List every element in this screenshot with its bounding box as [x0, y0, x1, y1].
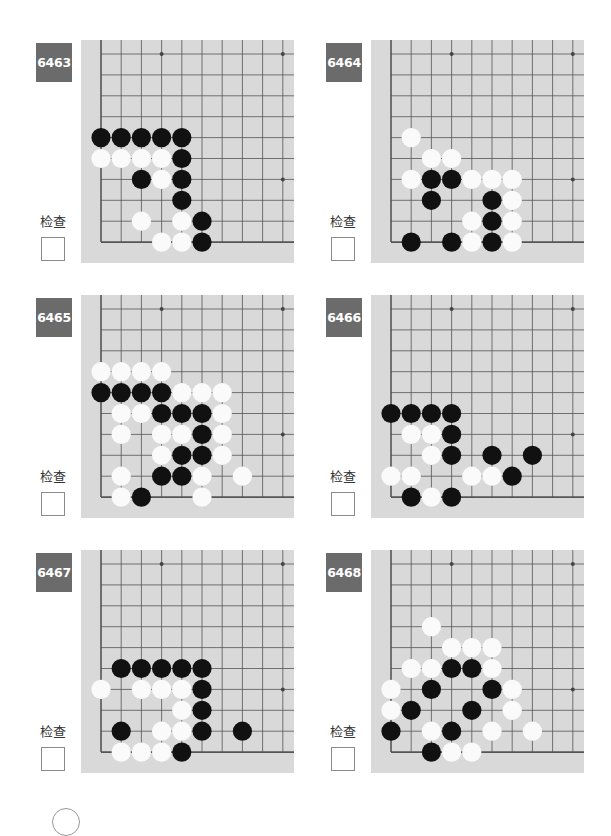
white-stone [152, 362, 171, 381]
white-stone [402, 659, 421, 678]
black-stone [442, 404, 461, 423]
white-stone [172, 701, 191, 720]
check-box[interactable] [41, 492, 65, 516]
problem-6467: 6467 检查 [30, 550, 300, 775]
white-stone [503, 170, 522, 189]
white-stone [422, 149, 441, 168]
black-stone [172, 128, 191, 147]
white-stone [112, 488, 131, 507]
white-stone [192, 383, 211, 402]
black-stone [192, 425, 211, 444]
black-stone [132, 659, 151, 678]
check-box[interactable] [331, 747, 355, 771]
white-stone [422, 722, 441, 741]
problem-6464: 6464 检查 [320, 40, 590, 265]
white-stone [482, 170, 501, 189]
white-stone [112, 425, 131, 444]
check-label: 检查 [40, 211, 66, 230]
white-stone [442, 149, 461, 168]
white-stone [462, 233, 481, 252]
white-stone [503, 212, 522, 231]
problem-number-badge: 6467 [36, 553, 72, 592]
black-stone [442, 722, 461, 741]
board-grid [371, 550, 584, 773]
black-stone [152, 383, 171, 402]
black-stone [112, 128, 131, 147]
check-box[interactable] [331, 237, 355, 261]
star-point [281, 687, 285, 691]
go-board [371, 40, 584, 263]
black-stone [172, 404, 191, 423]
board-grid [371, 295, 584, 518]
problem-number-badge: 6468 [326, 553, 362, 592]
problem-6466: 6466 检查 [320, 295, 590, 520]
go-board [371, 550, 584, 773]
black-stone [112, 383, 131, 402]
check-box[interactable] [41, 237, 65, 261]
star-point [160, 52, 164, 56]
white-stone [503, 191, 522, 210]
white-stone [442, 638, 461, 657]
star-point [571, 562, 575, 566]
white-stone [503, 233, 522, 252]
white-stone [523, 722, 542, 741]
black-stone [422, 191, 441, 210]
star-point [160, 307, 164, 311]
white-stone [482, 467, 501, 486]
white-stone [422, 659, 441, 678]
problem-6463: 6463 检查 [30, 40, 300, 265]
black-stone [172, 149, 191, 168]
black-stone [192, 659, 211, 678]
black-stone [442, 425, 461, 444]
white-stone [213, 383, 232, 402]
star-point [281, 52, 285, 56]
white-stone [402, 467, 421, 486]
black-stone [91, 128, 110, 147]
black-stone [381, 722, 400, 741]
black-stone [462, 659, 481, 678]
white-stone [422, 617, 441, 636]
check-label: 检查 [330, 211, 356, 230]
white-stone [91, 362, 110, 381]
white-stone [112, 149, 131, 168]
white-stone [213, 425, 232, 444]
check-box[interactable] [41, 747, 65, 771]
white-stone [422, 425, 441, 444]
black-stone [112, 659, 131, 678]
black-stone [422, 680, 441, 699]
star-point [281, 307, 285, 311]
board-grid [371, 40, 584, 263]
black-stone [192, 233, 211, 252]
star-point [450, 52, 454, 56]
black-stone [482, 212, 501, 231]
black-stone [482, 191, 501, 210]
star-point [571, 307, 575, 311]
white-stone [132, 212, 151, 231]
white-stone [152, 446, 171, 465]
white-stone [381, 680, 400, 699]
check-box[interactable] [331, 492, 355, 516]
white-stone [152, 722, 171, 741]
black-stone [172, 659, 191, 678]
white-stone [152, 743, 171, 762]
white-stone [172, 425, 191, 444]
white-stone [112, 467, 131, 486]
white-stone [91, 149, 110, 168]
white-stone [172, 680, 191, 699]
black-stone [442, 170, 461, 189]
black-stone [482, 680, 501, 699]
go-board [81, 295, 294, 518]
black-stone [402, 233, 421, 252]
problem-number-badge: 6466 [326, 298, 362, 337]
black-stone [192, 404, 211, 423]
white-stone [152, 149, 171, 168]
black-stone [152, 404, 171, 423]
star-point [571, 687, 575, 691]
black-stone [442, 659, 461, 678]
black-stone [482, 446, 501, 465]
white-stone [482, 659, 501, 678]
go-board [81, 40, 294, 263]
black-stone [442, 233, 461, 252]
white-stone [152, 680, 171, 699]
black-stone [442, 488, 461, 507]
